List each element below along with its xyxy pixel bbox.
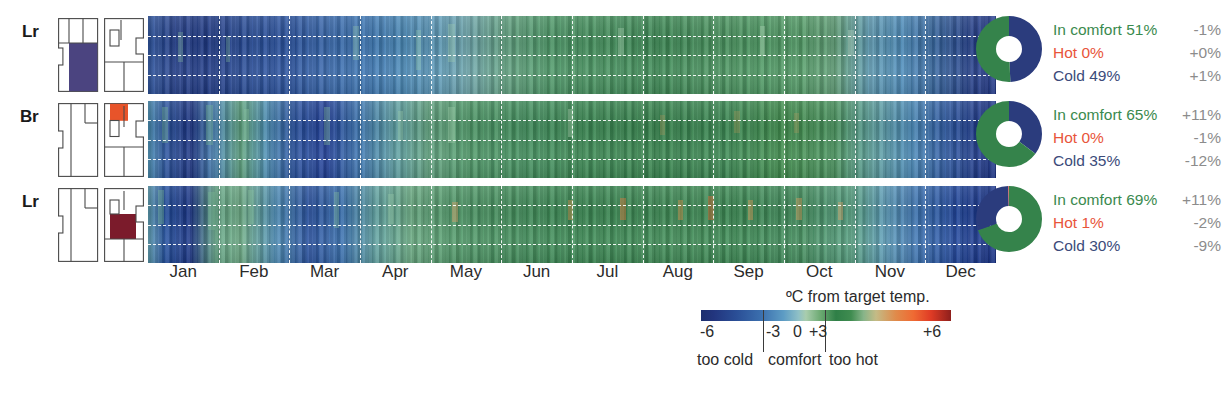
legend-hot-delta: -2%	[1163, 215, 1221, 231]
floor-plan-1	[58, 18, 144, 92]
row-label-3: Lr	[22, 192, 39, 212]
month-label-feb: Feb	[219, 262, 290, 282]
highlight-room-3	[110, 214, 136, 239]
legend-comfort-label: In comfort 65%	[1053, 107, 1157, 123]
heatmap-row-2	[148, 101, 996, 178]
legend-cold-delta: -12%	[1163, 153, 1221, 169]
colorbar-tick-plus6: +6	[923, 323, 941, 341]
legend-row-3: In comfort 69% +11% Hot 1% -2% Cold 30% …	[1053, 192, 1221, 254]
legend-cold-label: Cold 35%	[1053, 153, 1120, 169]
legend-hot-delta: -1%	[1163, 130, 1221, 146]
donut-chart-3	[976, 186, 1042, 256]
highlight-room-2	[110, 104, 128, 121]
legend-comfort-delta: +11%	[1163, 192, 1221, 208]
colorbar-caption-comfort: comfort	[768, 351, 821, 369]
month-label-oct: Oct	[784, 262, 855, 282]
heatmap-row-3	[148, 186, 996, 263]
month-axis: Jan Feb Mar Apr May Jun Jul Aug Sep Oct …	[148, 262, 996, 286]
floor-plan-3	[58, 188, 144, 262]
floor-plan-2	[58, 103, 144, 177]
month-label-jul: Jul	[572, 262, 643, 282]
month-label-dec: Dec	[925, 262, 996, 282]
legend-hot-delta: +0%	[1163, 45, 1221, 61]
month-label-apr: Apr	[360, 262, 431, 282]
colorbar-tick-cold-boundary	[763, 310, 764, 352]
month-label-aug: Aug	[643, 262, 714, 282]
month-label-sep: Sep	[713, 262, 784, 282]
colorbar-caption-too-hot: too hot	[829, 351, 878, 369]
figure-root: Lr	[0, 0, 1225, 405]
heatmap-row-1	[148, 16, 996, 94]
donut-chart-2	[976, 101, 1042, 171]
legend-hot-label: Hot 1%	[1053, 215, 1104, 231]
legend-comfort-label: In comfort 69%	[1053, 192, 1157, 208]
legend-comfort-delta: -1%	[1163, 22, 1221, 38]
month-label-mar: Mar	[289, 262, 360, 282]
legend-cold-label: Cold 30%	[1053, 238, 1120, 254]
month-label-nov: Nov	[855, 262, 926, 282]
colorbar-tick-minus6: -6	[700, 323, 714, 341]
month-label-jun: Jun	[501, 262, 572, 282]
colorbar: ºC from target temp. -6 -3 0 +3 +6 too c…	[690, 288, 960, 378]
legend-cold-label: Cold 49%	[1053, 68, 1120, 84]
legend-comfort-delta: +11%	[1163, 107, 1221, 123]
month-label-may: May	[431, 262, 502, 282]
legend-comfort-label: In comfort 51%	[1053, 22, 1157, 38]
colorbar-tick-minus3: -3	[766, 323, 780, 341]
colorbar-gradient	[701, 310, 951, 321]
colorbar-title: ºC from target temp.	[786, 288, 930, 306]
row-label-1: Lr	[22, 22, 39, 42]
colorbar-tick-zero: 0	[793, 323, 802, 341]
row-label-2: Br	[20, 107, 39, 127]
legend-hot-label: Hot 0%	[1053, 130, 1104, 146]
donut-chart-1	[976, 16, 1042, 86]
legend-row-2: In comfort 65% +11% Hot 0% -1% Cold 35% …	[1053, 107, 1221, 169]
colorbar-tick-plus3: +3	[809, 323, 827, 341]
legend-cold-delta: +1%	[1163, 68, 1221, 84]
legend-row-1: In comfort 51% -1% Hot 0% +0% Cold 49% +…	[1053, 22, 1221, 84]
legend-cold-delta: -9%	[1163, 238, 1221, 254]
month-label-jan: Jan	[148, 262, 219, 282]
highlight-room-1	[69, 43, 97, 91]
colorbar-caption-too-cold: too cold	[697, 351, 753, 369]
legend-hot-label: Hot 0%	[1053, 45, 1104, 61]
